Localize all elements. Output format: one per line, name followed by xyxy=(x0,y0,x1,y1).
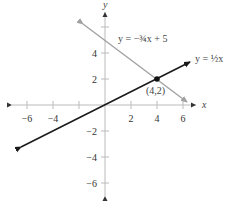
x-tick-label: −4 xyxy=(48,113,59,124)
y-axis-label: y xyxy=(102,0,108,10)
x-tick-label: 4 xyxy=(155,113,160,124)
x-tick-label: 2 xyxy=(129,113,134,124)
intersection-label: (4,2) xyxy=(146,85,165,97)
line2-equation-label: y = −¾x + 5 xyxy=(118,33,167,44)
intersection-point xyxy=(154,76,160,82)
y-tick-label: 4 xyxy=(92,48,97,59)
y-tick-label: −4 xyxy=(86,152,97,163)
y-tick-label: −2 xyxy=(86,126,97,137)
line1-equation-label: y = ½x xyxy=(195,53,223,64)
coordinate-plane: −6 −4 2 4 6 4 2 −2 −4 −6 x y y = −¾x + 5… xyxy=(0,0,235,209)
x-tick-label: 6 xyxy=(181,113,186,124)
y-tick-label: −6 xyxy=(86,178,97,189)
y-tick-label: 2 xyxy=(92,74,97,85)
x-axis-label: x xyxy=(201,99,207,110)
x-tick-label: −6 xyxy=(22,113,33,124)
